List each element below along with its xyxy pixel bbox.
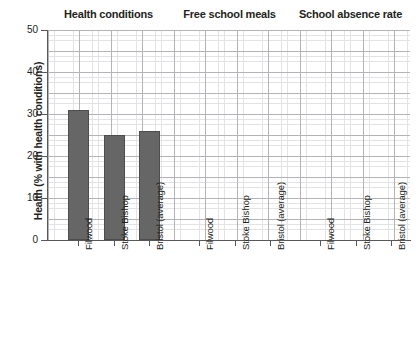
panel-title-school-absence-rate: School absence rate [290,8,411,20]
y-axis-line [47,30,48,241]
x-label-p2-stoke-bishop: Stoke Bishop [361,195,372,250]
plot-area [48,30,410,240]
panel-title-free-school-meals: Free school meals [169,8,290,20]
major-horizontal-gridlines [48,30,410,240]
x-label-p1-bristol-average: Bristol (average) [275,182,286,250]
y-tick-label-40: 40 [0,67,38,77]
x-label-p0-bristol-average: Bristol (average) [154,182,165,250]
x-tick-p1-stoke-bishop [235,241,236,246]
x-label-p1-filwood: Filwood [204,218,215,250]
y-tick-20 [41,156,47,157]
x-label-p2-bristol-average: Bristol (average) [396,182,407,250]
y-tick-30 [41,114,47,115]
x-tick-p2-bristol-average [391,241,392,246]
x-label-p2-filwood: Filwood [325,218,336,250]
y-tick-0 [41,240,47,241]
x-tick-p2-filwood [320,241,321,246]
bar-chart: Health conditions Free school meals Scho… [0,0,420,338]
x-label-p0-filwood: Filwood [83,218,94,250]
x-tick-p1-filwood [199,241,200,246]
y-tick-label-10: 10 [0,193,38,203]
panel-title-health-conditions: Health conditions [48,8,169,20]
x-tick-p2-stoke-bishop [356,241,357,246]
x-label-p1-stoke-bishop: Stoke Bishop [240,195,251,250]
minor-gridlines [48,30,410,240]
major-vertical-gridlines [48,30,410,240]
x-tick-p0-bristol-average [149,241,150,246]
y-tick-10 [41,198,47,199]
x-label-p0-stoke-bishop: Stoke Bishop [119,195,130,250]
y-tick-40 [41,72,47,73]
y-tick-label-0: 0 [0,235,38,245]
y-tick-label-30: 30 [0,109,38,119]
x-tick-p0-stoke-bishop [114,241,115,246]
x-tick-p1-bristol-average [270,241,271,246]
y-tick-50 [41,30,47,31]
x-tick-p0-filwood [78,241,79,246]
y-tick-label-50: 50 [0,25,38,35]
y-tick-label-20: 20 [0,151,38,161]
